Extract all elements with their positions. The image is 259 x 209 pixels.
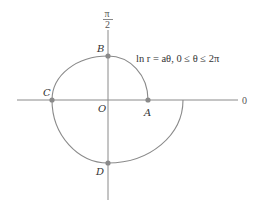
- spiral-curve: [52, 56, 183, 163]
- polar-diagram: B C O A D π 2 0 ln r = aθ, 0 ≤ θ ≤ 2π: [0, 0, 259, 209]
- point-a: [145, 97, 150, 102]
- label-zero: 0: [242, 95, 247, 106]
- label-a: A: [143, 107, 151, 118]
- point-c: [49, 97, 54, 102]
- label-c: C: [43, 87, 51, 98]
- label-origin: O: [98, 103, 106, 114]
- label-two: 2: [105, 19, 110, 30]
- label-d: D: [95, 166, 104, 177]
- label-b: B: [96, 43, 104, 54]
- point-d: [105, 160, 110, 165]
- point-b: [105, 53, 110, 58]
- equation-label: ln r = aθ, 0 ≤ θ ≤ 2π: [136, 53, 220, 64]
- label-pi: π: [105, 8, 110, 19]
